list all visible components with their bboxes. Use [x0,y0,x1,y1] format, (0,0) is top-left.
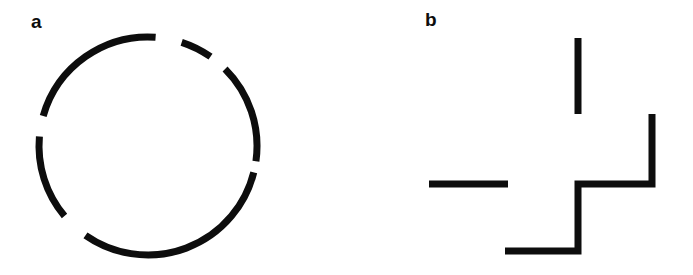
panel-b: b [347,0,693,275]
arc-right-bottom [85,172,253,255]
staircase-polyline [505,114,652,251]
staircase-segment-group [429,38,652,251]
arc-bottom-left [39,137,65,217]
figure-root: a b [0,0,693,275]
arc-upper-right [225,69,257,161]
fragmented-staircase-graphic [347,0,693,275]
fragmented-circle-graphic [0,0,347,275]
circle-arc-group [39,37,257,255]
arc-top-left [43,37,155,116]
panel-a: a [0,0,347,275]
arc-top [182,42,211,56]
